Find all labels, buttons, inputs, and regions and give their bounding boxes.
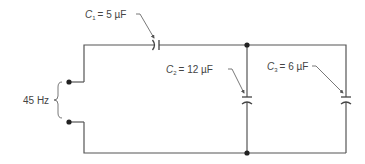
- circuit-diagram: 45 Hz C1= 5 µF C2= 12 µF C3= 6 µF: [0, 0, 365, 164]
- junction-top-icon: [244, 42, 249, 47]
- brace-icon: [54, 82, 62, 118]
- c3-label: C3= 6 µF: [267, 61, 308, 73]
- leader-c1: [136, 14, 154, 38]
- leader-c2: [228, 69, 244, 93]
- junction-bottom-icon: [244, 150, 249, 155]
- terminal-top-icon: [66, 79, 71, 84]
- source-label: 45 Hz: [23, 95, 49, 106]
- wire-top-left: [84, 45, 154, 82]
- c2-label: C2= 12 µF: [166, 64, 213, 76]
- wire-bottom: [84, 122, 346, 153]
- leader-c3: [312, 66, 343, 93]
- c1-label: C1= 5 µF: [85, 9, 126, 21]
- terminal-bottom-icon: [66, 119, 71, 124]
